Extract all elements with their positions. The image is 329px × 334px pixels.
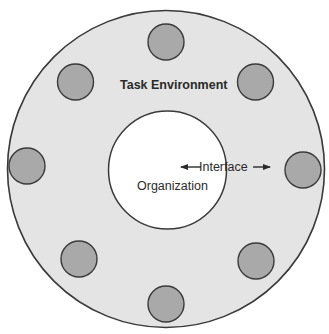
element-top: [148, 24, 184, 60]
task-environment-diagram: Task Environment Organization Interface: [0, 0, 329, 334]
element-bottom: [148, 286, 184, 322]
element-right: [285, 152, 321, 188]
interface-label: Interface: [199, 160, 248, 174]
element-bottom-left: [61, 241, 97, 277]
element-top-left: [58, 64, 94, 100]
element-left: [9, 148, 45, 184]
task-environment-label: Task Environment: [120, 78, 228, 92]
element-bottom-right: [238, 243, 274, 279]
organization-label: Organization: [137, 179, 208, 193]
element-top-right: [238, 64, 274, 100]
